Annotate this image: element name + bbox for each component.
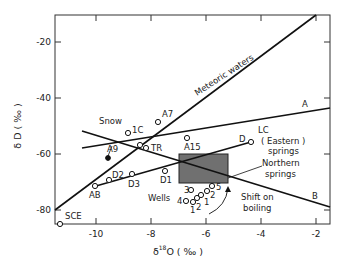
well-2b <box>204 188 209 193</box>
label-a9: A9 <box>107 144 118 154</box>
label-d3: D3 <box>128 179 140 189</box>
label-boiling: boiling <box>243 203 271 213</box>
y-tick-label: -60 <box>36 149 51 159</box>
label-d: D <box>239 134 246 144</box>
x-tick-label: -2 <box>312 229 321 239</box>
y-axis-label: δ D ( ‰ ) <box>12 103 23 148</box>
label-shift: Shift on <box>241 192 274 202</box>
well-5 <box>209 183 214 188</box>
well-label-2a: 2 <box>196 202 201 212</box>
well-label-5: 5 <box>216 182 221 192</box>
x-axis-label: δ18O ( ‰ ) <box>153 244 203 257</box>
point-tr-1 <box>137 142 142 147</box>
label-d2: D2 <box>112 170 124 180</box>
point-ab <box>92 183 97 188</box>
point-d1 <box>162 168 167 173</box>
point-tr-2 <box>143 145 148 150</box>
point-d2 <box>106 177 111 182</box>
y-tick-label: -20 <box>36 37 51 47</box>
label-springs-2: springs <box>265 169 296 179</box>
arrowhead-icon <box>225 186 231 192</box>
well-label-2b: 2 <box>210 190 215 200</box>
label-b: B <box>312 191 318 201</box>
label-wells: Wells <box>148 193 171 203</box>
label-sce: SCE <box>65 211 82 221</box>
label-northern: Northern <box>262 158 300 168</box>
label-a15: A15 <box>184 142 201 152</box>
x-tick-label: -8 <box>147 229 156 239</box>
label-lc: LC <box>258 125 269 135</box>
point-d3 <box>129 171 134 176</box>
well-label-1b: 1 <box>204 197 209 207</box>
label-a: A <box>302 99 308 109</box>
x-tick-label: -10 <box>89 229 104 239</box>
label-ab: AB <box>89 190 101 200</box>
point-1c <box>125 130 130 135</box>
well-4 <box>183 198 188 203</box>
well-label-4: 4 <box>177 196 182 206</box>
isotope-chart: -10 -8 -6 -4 -2 -20 -40 -60 -80 δ D ( ‰ … <box>0 0 344 264</box>
label-eastern: ( Eastern ) <box>261 136 305 146</box>
label-d1: D1 <box>160 175 172 185</box>
well-label-1a: 1 <box>190 205 195 215</box>
point-d <box>248 139 253 144</box>
label-a7: A7 <box>162 109 173 119</box>
point-a15 <box>184 135 189 140</box>
meteoric-label: Meteoric waters <box>193 52 256 98</box>
x-tick-label: -6 <box>202 229 211 239</box>
point-a7 <box>155 119 160 124</box>
label-snow: Snow <box>99 116 122 126</box>
label-tr: TR <box>150 143 162 153</box>
label-springs-1: springs <box>268 146 299 156</box>
well-1b <box>198 192 203 197</box>
y-tick-label: -80 <box>36 205 51 215</box>
northern-springs-pointer <box>228 166 262 178</box>
point-sce <box>57 221 62 226</box>
well-label-3: 3 <box>184 185 189 195</box>
label-1c: 1C <box>132 125 143 135</box>
point-snow-a9 <box>106 156 111 161</box>
y-tick-label: -40 <box>36 93 51 103</box>
x-tick-label: -4 <box>257 229 266 239</box>
